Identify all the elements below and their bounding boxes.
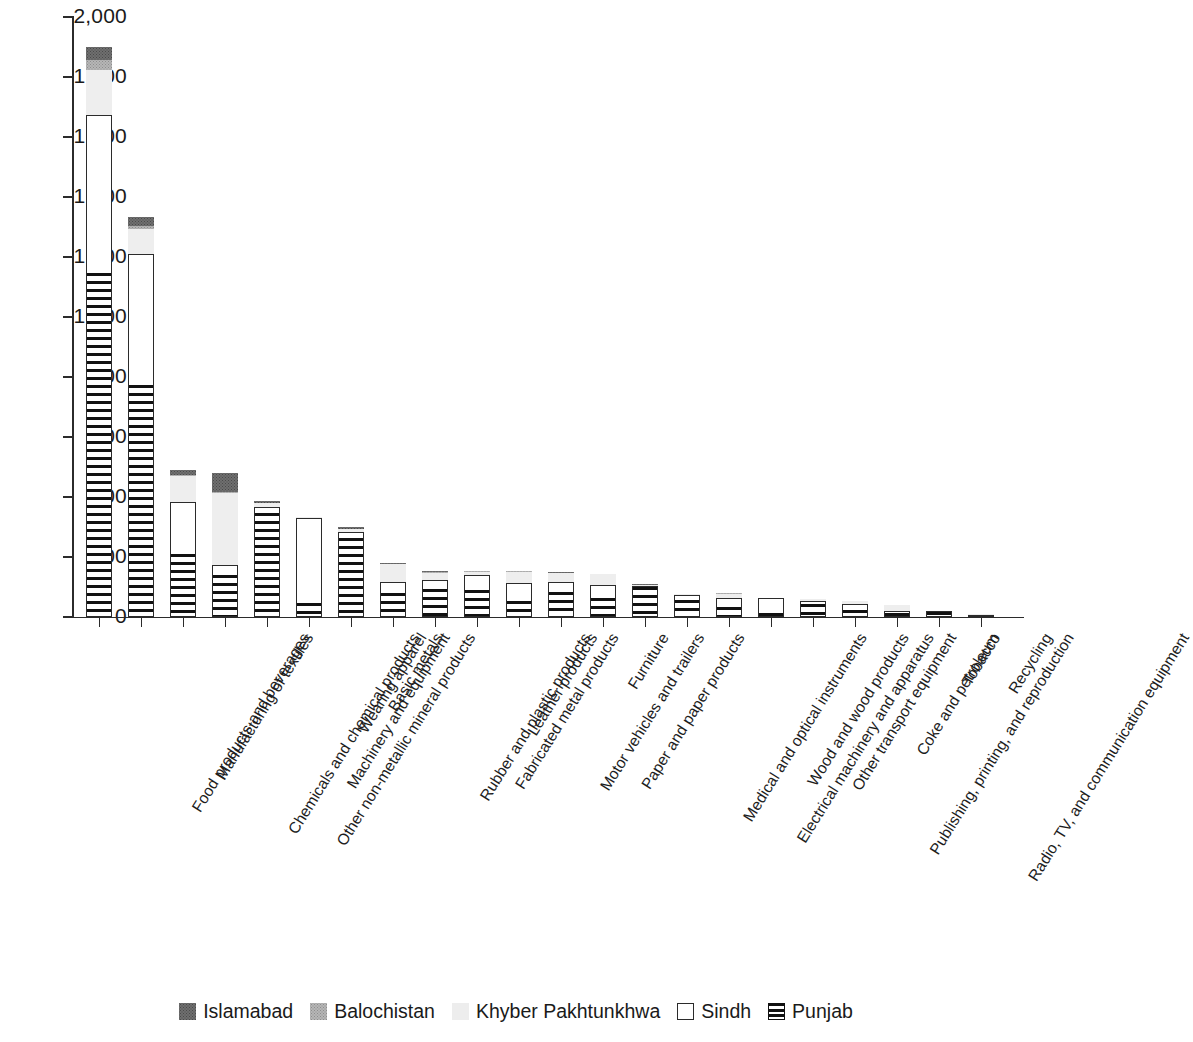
legend-swatch-icon [452, 1003, 469, 1020]
bar-segment-punjab [296, 603, 322, 617]
bar-segment-islamabad [86, 47, 112, 60]
bar-segment-sindh [716, 598, 742, 607]
x-axis-tick [729, 617, 730, 627]
bar-stack[interactable] [548, 572, 574, 617]
bar-stack[interactable] [674, 594, 700, 617]
x-axis-tick [645, 617, 646, 627]
x-axis-tick [351, 617, 352, 627]
bar-stack[interactable] [296, 517, 322, 617]
y-axis-tick [63, 256, 72, 258]
bar-segment-punjab [254, 513, 280, 617]
bar-segment-sindh [464, 575, 490, 590]
legend-item-islamabad[interactable]: Islamabad [179, 1000, 293, 1023]
y-axis-tick [63, 616, 72, 618]
bar-segment-sindh [380, 582, 406, 593]
y-axis-line [72, 16, 74, 618]
bar-stack[interactable] [758, 598, 784, 617]
y-axis-tick [63, 556, 72, 558]
bar-segment-sindh [86, 115, 112, 273]
x-axis-tick [981, 617, 982, 627]
bar-segment-kp [86, 70, 112, 115]
x-axis-tick [477, 617, 478, 627]
bar-segment-sindh [422, 580, 448, 588]
x-axis-tick [813, 617, 814, 627]
bar-stack[interactable] [170, 470, 196, 617]
bar-stack[interactable] [506, 571, 532, 617]
bar-segment-punjab [632, 587, 658, 617]
x-axis-tick [561, 617, 562, 627]
x-axis-tick [267, 617, 268, 627]
x-axis-tick [309, 617, 310, 627]
bar-segment-punjab [212, 575, 238, 617]
bar-stack[interactable] [800, 599, 826, 617]
legend-swatch-icon [677, 1003, 694, 1020]
bar-segment-punjab [548, 592, 574, 617]
bar-segment-punjab [422, 589, 448, 618]
x-axis-tick [687, 617, 688, 627]
legend-label: Islamabad [203, 1000, 293, 1023]
bar-segment-punjab [338, 538, 364, 617]
bar-stack[interactable] [128, 217, 154, 617]
bar-segment-kp [506, 572, 532, 583]
bar-segment-kp [548, 573, 574, 581]
x-axis-tick [519, 617, 520, 627]
legend-item-balochistan[interactable]: Balochistan [310, 1000, 435, 1023]
bar-segment-islamabad [212, 473, 238, 492]
legend-swatch-icon [310, 1003, 327, 1020]
bar-segment-sindh [128, 254, 154, 385]
bar-stack[interactable] [380, 563, 406, 617]
y-axis-tick [63, 196, 72, 198]
bar-segment-kp [884, 605, 910, 612]
bar-segment-baloch [86, 60, 112, 70]
legend-swatch-icon [179, 1003, 196, 1020]
y-axis-tick [63, 316, 72, 318]
plot-area [72, 16, 1024, 618]
bar-segment-sindh [212, 565, 238, 575]
bar-segment-kp [422, 573, 448, 581]
bar-segment-sindh [296, 518, 322, 603]
bar-segment-punjab [506, 601, 532, 617]
bar-segment-sindh [758, 598, 784, 612]
bar-stack[interactable] [464, 571, 490, 617]
y-axis-tick [63, 76, 72, 78]
bar-stack[interactable] [884, 605, 910, 617]
x-axis-tick [183, 617, 184, 627]
bar-segment-kp [380, 564, 406, 581]
x-axis-label: Publishing, printing, and reproduction [926, 630, 1078, 858]
bar-segment-punjab [86, 273, 112, 617]
chart-legend: IslamabadBalochistanKhyber PakhtunkhwaSi… [0, 1000, 1032, 1023]
bar-stack[interactable] [632, 584, 658, 617]
legend-label: Punjab [792, 1000, 853, 1023]
y-axis-tick [63, 436, 72, 438]
legend-label: Khyber Pakhtunkhwa [476, 1000, 660, 1023]
bar-stack[interactable] [338, 527, 364, 617]
bar-segment-punjab [590, 598, 616, 618]
x-axis-label: Manufacturing of textiles [212, 630, 317, 783]
x-axis-tick [393, 617, 394, 627]
legend-item-khyber-pakhtunkhwa[interactable]: Khyber Pakhtunkhwa [452, 1000, 660, 1023]
bar-segment-kp [590, 574, 616, 585]
bar-stack[interactable] [842, 601, 868, 617]
y-axis-tick [63, 16, 72, 18]
bar-segment-kp [128, 229, 154, 255]
bar-segment-sindh [506, 583, 532, 601]
bar-stack[interactable] [254, 501, 280, 617]
bar-segment-sindh [548, 582, 574, 593]
bar-stack[interactable] [86, 47, 112, 617]
bar-segment-sindh [590, 585, 616, 598]
legend-item-punjab[interactable]: Punjab [768, 1000, 853, 1023]
bar-segment-sindh [170, 502, 196, 554]
x-axis-tick [141, 617, 142, 627]
bar-stack[interactable] [590, 574, 616, 617]
bar-stack[interactable] [212, 473, 238, 617]
y-axis-tick [63, 136, 72, 138]
x-axis-tick [99, 617, 100, 627]
bar-stack[interactable] [716, 593, 742, 617]
x-axis-tick [225, 617, 226, 627]
bar-stack[interactable] [422, 571, 448, 617]
bar-segment-sindh [338, 532, 364, 539]
legend-item-sindh[interactable]: Sindh [677, 1000, 751, 1023]
x-axis-tick [897, 617, 898, 627]
bar-segment-punjab [674, 600, 700, 617]
